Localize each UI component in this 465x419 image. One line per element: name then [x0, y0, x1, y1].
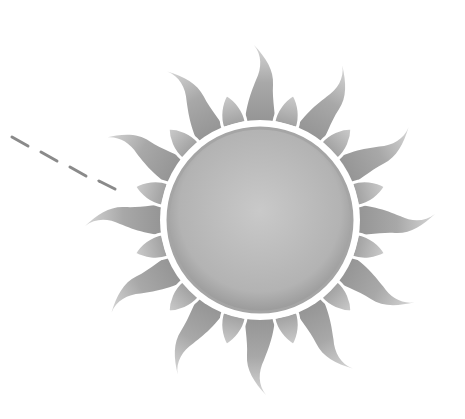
dashed-line: [12, 137, 115, 189]
dash-segment: [12, 137, 28, 146]
sun-disc: [168, 128, 352, 312]
dash-segment: [99, 181, 115, 189]
dash-segment: [41, 152, 57, 161]
dash-segment: [70, 167, 86, 176]
sun-illustration: [0, 0, 465, 419]
